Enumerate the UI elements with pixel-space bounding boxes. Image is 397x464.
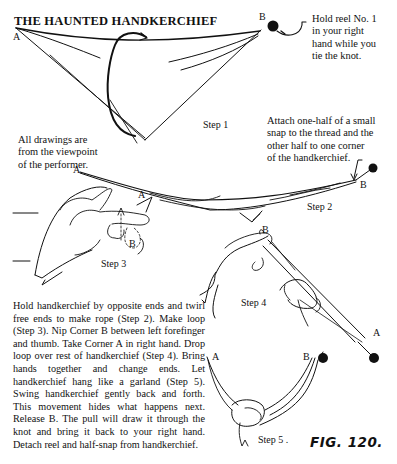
- step2-rope-drawing: [80, 160, 378, 222]
- corner-b-label-step4: B: [262, 225, 269, 235]
- step4-hand-drawing: [200, 230, 379, 363]
- step1-handkerchief-drawing: [16, 21, 306, 144]
- step1-label: Step 1: [203, 119, 228, 130]
- corner-b-label-step5: B: [303, 352, 310, 362]
- step5-garland-drawing: [207, 352, 328, 446]
- viewpoint-note: All drawings are from the viewpoint of t…: [18, 134, 98, 171]
- snap-note: Attach one-half of a small snap to the t…: [267, 115, 375, 165]
- reel-note: Hold reel No. 1 in your right hand while…: [312, 13, 377, 63]
- corner-a-label-step1: A: [13, 32, 20, 42]
- corner-b-label-step3: B: [129, 239, 136, 249]
- figure-label: FIG. 120.: [310, 434, 383, 450]
- corner-a-label-step5: A: [212, 352, 219, 362]
- corner-a-label-step3: A: [138, 190, 145, 200]
- corner-a-label-step4: A: [373, 328, 380, 338]
- corner-b-label-step2: B: [360, 180, 367, 190]
- step5-label: Step 5 .: [258, 434, 288, 445]
- step4-label: Step 4: [241, 297, 266, 308]
- instructions-paragraph: Hold handkerchief by opposite ends and t…: [13, 300, 205, 451]
- step3-label: Step 3: [101, 258, 126, 269]
- step2-label: Step 2: [307, 201, 332, 212]
- step3-hand-drawing: [13, 187, 152, 285]
- corner-b-label-step1: B: [259, 12, 266, 22]
- page-title: THE HAUNTED HANDKERCHIEF: [14, 14, 217, 29]
